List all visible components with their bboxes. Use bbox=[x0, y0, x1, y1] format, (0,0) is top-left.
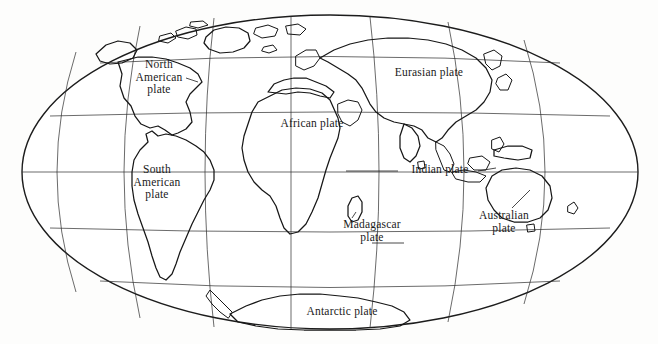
plate-label-antarctic[interactable]: Antarctic plate bbox=[294, 305, 390, 318]
plate-label-north-american[interactable]: North American plate bbox=[126, 58, 192, 96]
tectonic-plates-map-figure: North American plate Eurasian plate Afri… bbox=[0, 0, 658, 344]
plate-label-african[interactable]: African plate bbox=[264, 117, 360, 130]
plate-label-south-american[interactable]: South American plate bbox=[122, 163, 192, 201]
plate-label-eurasian[interactable]: Eurasian plate bbox=[374, 66, 484, 79]
plate-label-madagascar[interactable]: Madagascar plate bbox=[334, 218, 410, 243]
coastline-arctic-island-5 bbox=[190, 21, 208, 28]
world-map-svg bbox=[0, 0, 658, 344]
plate-label-australian[interactable]: Australian plate bbox=[466, 209, 542, 234]
plate-label-indian[interactable]: Indian plate bbox=[400, 163, 480, 176]
